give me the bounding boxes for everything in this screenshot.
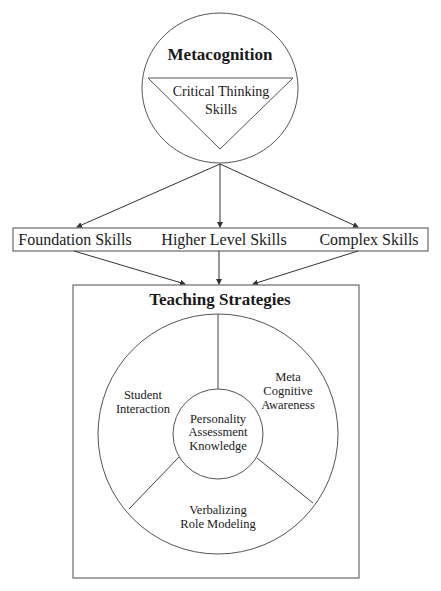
metacognition-title: Metacognition (168, 45, 273, 64)
arrow-to-complex (220, 164, 358, 227)
center-line-1: Personality (190, 412, 247, 426)
metacognition-diagram: Metacognition Critical Thinking Skills F… (0, 0, 441, 591)
arrow-to-foundation (77, 164, 220, 227)
center-line-2: Assessment (188, 425, 248, 439)
center-line-3: Knowledge (189, 439, 247, 453)
teaching-strategies-title: Teaching Strategies (149, 290, 291, 309)
meta-cognitive-line-1: Meta (275, 370, 301, 384)
triangle-line-2: Skills (205, 102, 237, 117)
verbalizing-line-1: Verbalizing (189, 503, 247, 517)
meta-cognitive-line-3: Awareness (261, 398, 315, 412)
verbalizing-line-2: Role Modeling (180, 517, 256, 531)
student-interaction-line-2: Interaction (116, 402, 171, 416)
higher-level-skills-label: Higher Level Skills (161, 231, 286, 249)
triangle-line-1: Critical Thinking (173, 84, 270, 99)
foundation-skills-label: Foundation Skills (18, 231, 131, 248)
arrow-complex-to-teaching (253, 251, 358, 284)
meta-cognitive-line-2: Cognitive (263, 384, 313, 398)
complex-skills-label: Complex Skills (319, 231, 418, 249)
student-interaction-line-1: Student (124, 388, 163, 402)
arrow-foundation-to-teaching (74, 251, 185, 284)
